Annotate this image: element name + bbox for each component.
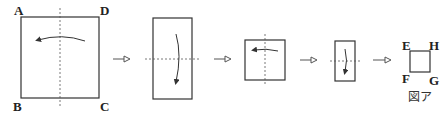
stage-5-final-square <box>410 51 430 72</box>
fold-arrow-left <box>38 37 85 41</box>
figure-caption: 図ア <box>408 91 432 103</box>
fold-arrow-left <box>254 49 278 51</box>
corner-label-b: B <box>13 100 22 113</box>
corner-label-h: H <box>429 39 439 52</box>
stage-2-rectangle <box>145 18 201 99</box>
fold-arrow-down <box>345 49 347 72</box>
stage-4-rectangle <box>330 41 360 81</box>
corner-label-a: A <box>14 4 23 17</box>
step-arrow-4 <box>373 57 391 63</box>
folding-diagram <box>0 0 445 114</box>
corner-label-d: D <box>100 4 109 17</box>
corner-label-g: G <box>429 74 439 87</box>
step-arrow-3 <box>300 57 317 63</box>
stage-1-square <box>21 8 99 106</box>
fold-arrow-down <box>176 34 179 82</box>
stage-3-square <box>245 34 285 86</box>
step-arrow-1 <box>113 56 130 62</box>
corner-label-e: E <box>402 39 411 52</box>
corner-label-f: F <box>402 72 410 85</box>
step-arrow-2 <box>214 56 231 62</box>
corner-label-c: C <box>100 100 109 113</box>
